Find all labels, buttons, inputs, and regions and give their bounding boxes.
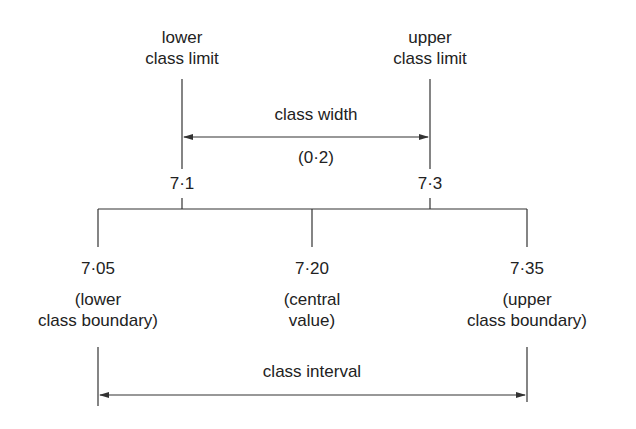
lower-class-limit-label: lower class limit xyxy=(122,27,242,69)
class-interval-label: class interval xyxy=(237,361,387,382)
lower-limit-value: 7·1 xyxy=(157,173,207,194)
class-width-value: (0·2) xyxy=(276,147,356,168)
class-interval-diagram: lower class limit upper class limit clas… xyxy=(0,0,636,429)
upper-limit-value: 7·3 xyxy=(405,173,455,194)
upper-class-boundary-label: 7·35 (upper class boundary) xyxy=(457,258,597,331)
upper-class-limit-label: upper class limit xyxy=(370,27,490,69)
central-value-label: 7·20 (central value) xyxy=(252,258,372,331)
lower-class-boundary-label: 7·05 (lower class boundary) xyxy=(28,258,168,331)
class-width-label: class width xyxy=(256,104,376,125)
